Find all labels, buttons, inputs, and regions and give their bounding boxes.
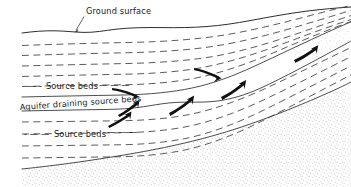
label-ground-surface: Ground surface bbox=[86, 6, 151, 16]
upper-outcrop-stipple-region bbox=[252, 7, 351, 94]
flow-arrow-6 bbox=[221, 80, 246, 100]
label-source-beds-lower: Source beds bbox=[54, 129, 106, 139]
legend-dash-upper-prefix: — - bbox=[28, 81, 42, 91]
legend-dash-upper-suffix: — — — bbox=[99, 80, 130, 90]
legend-dash-lower-prefix: - — — bbox=[24, 129, 49, 139]
flow-arrow-4 bbox=[169, 96, 194, 116]
ground-surface-leader-line bbox=[76, 17, 84, 31]
cross-section-drawing: Ground surface — - Source beds — — — Aqu… bbox=[0, 0, 351, 187]
hydrogeology-cross-section-figure: Ground surface — - Source beds — — — Aqu… bbox=[0, 0, 351, 187]
legend-dash-lower-suffix: — — — bbox=[107, 127, 138, 137]
